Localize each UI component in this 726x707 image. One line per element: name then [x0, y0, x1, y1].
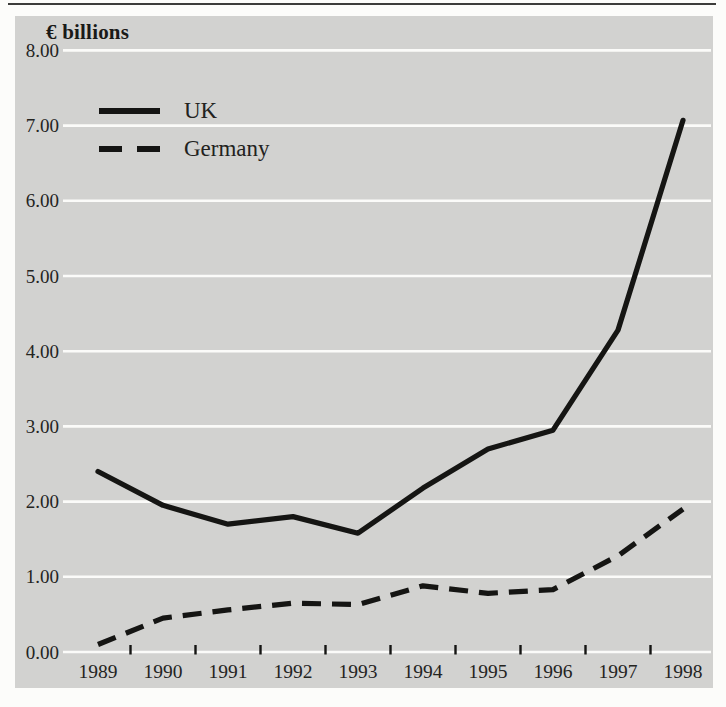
x-axis-tick: [584, 645, 586, 655]
y-tick-label: 3.00: [26, 416, 59, 437]
x-tick-label: 1994: [404, 661, 443, 682]
x-tick-label: 1990: [144, 661, 183, 682]
x-tick-label: 1992: [274, 661, 313, 682]
x-tick-label: 1993: [339, 661, 378, 682]
x-axis-tick: [194, 645, 196, 655]
x-axis-tick: [129, 645, 131, 655]
legend-row-germany: Germany: [99, 135, 270, 163]
x-axis-tick: [324, 645, 326, 655]
y-tick-label: 4.00: [26, 341, 59, 362]
y-tick-label: 0.00: [26, 642, 59, 663]
x-tick-label: 1997: [599, 661, 638, 682]
legend-row-uk: UK: [99, 97, 270, 125]
y-tick-label: 5.00: [26, 266, 59, 287]
y-tick-label: 7.00: [26, 115, 59, 136]
x-axis-tick: [389, 645, 391, 655]
x-tick-label: 1998: [664, 661, 703, 682]
y-tick-label: 2.00: [26, 491, 59, 512]
legend-germany-swatch: [99, 146, 160, 152]
legend: UK Germany: [99, 97, 270, 163]
x-axis-tick: [259, 645, 261, 655]
legend-uk-swatch: [99, 108, 160, 114]
x-tick-label: 1991: [209, 661, 248, 682]
y-tick-label: 1.00: [26, 566, 59, 587]
x-axis-tick: [454, 645, 456, 655]
x-axis-tick: [519, 645, 521, 655]
x-tick-label: 1989: [79, 661, 118, 682]
x-tick-label: 1996: [534, 661, 573, 682]
y-tick-label: 6.00: [26, 190, 59, 211]
legend-germany-label: Germany: [184, 136, 270, 162]
unit-label: € billions: [46, 20, 129, 45]
legend-uk-label: UK: [184, 98, 217, 124]
x-axis-tick: [649, 645, 651, 655]
x-tick-label: 1995: [469, 661, 508, 682]
